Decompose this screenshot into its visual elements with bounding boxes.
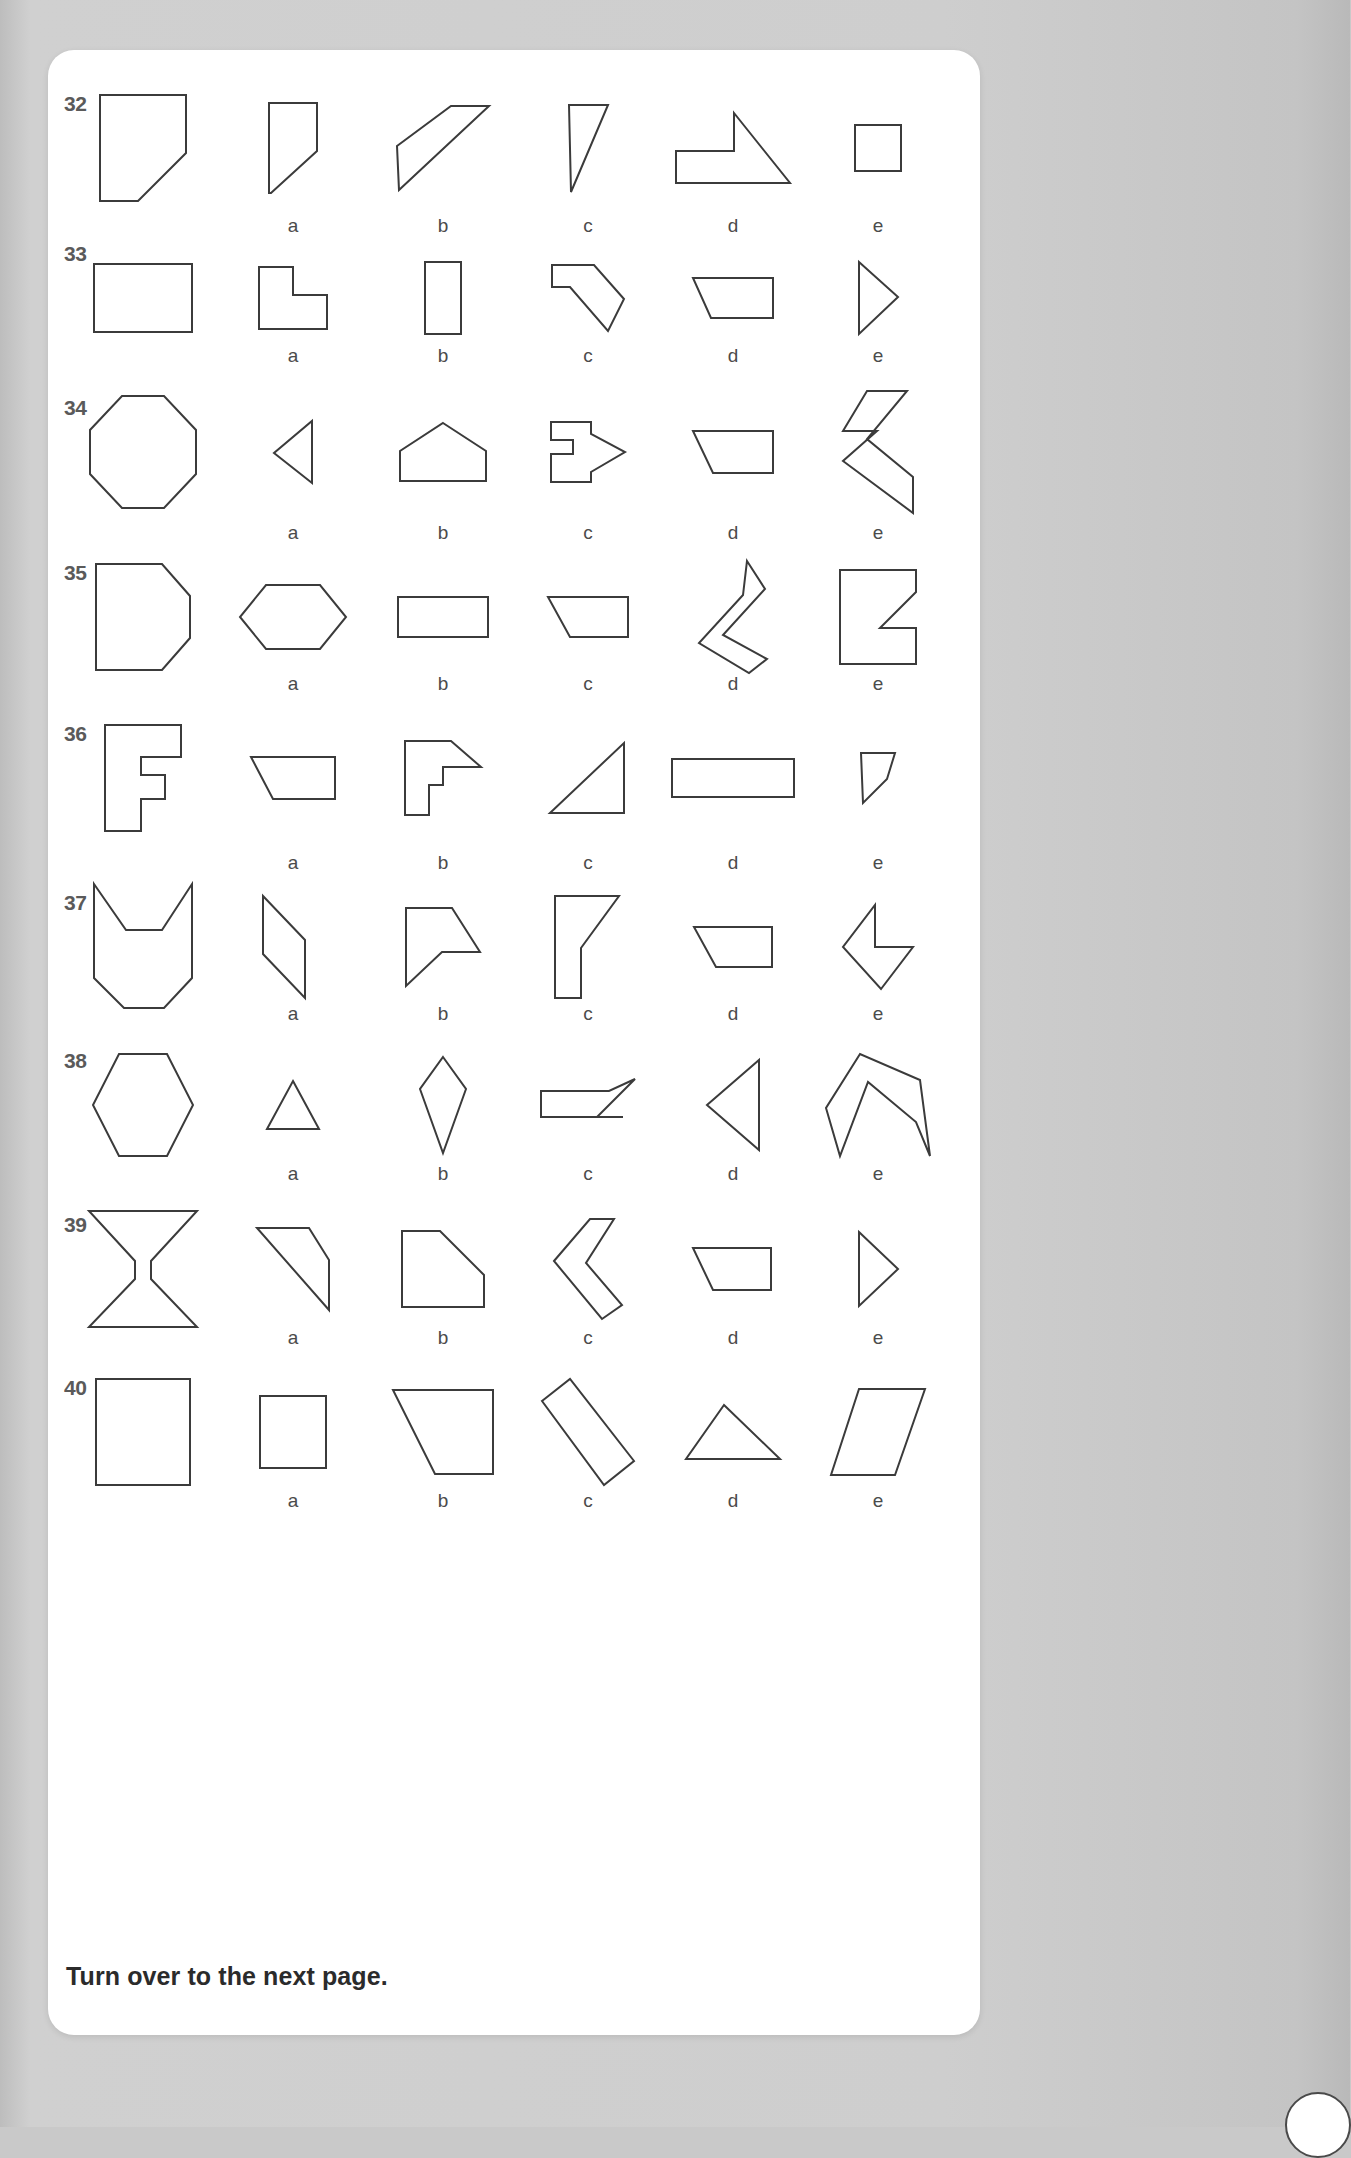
option-shape-d[interactable] — [697, 559, 769, 675]
option-label-c[interactable]: c — [568, 1490, 608, 1512]
option-shape-a[interactable] — [238, 583, 348, 651]
option-shape-a[interactable] — [267, 101, 319, 195]
option-shape-c[interactable] — [540, 1377, 636, 1487]
option-shape-a[interactable] — [261, 894, 325, 1000]
option-label-a[interactable]: a — [273, 1163, 313, 1185]
option-label-d[interactable]: d — [713, 522, 753, 544]
question-number: 39 — [64, 1213, 86, 1237]
option-label-d[interactable]: d — [713, 673, 753, 695]
option-shape-d[interactable] — [691, 1246, 775, 1292]
option-shape-e[interactable] — [856, 1229, 900, 1309]
option-shape-b[interactable] — [395, 104, 491, 192]
option-label-b[interactable]: b — [423, 1163, 463, 1185]
option-shape-e[interactable] — [859, 751, 897, 805]
option-label-e[interactable]: e — [858, 1327, 898, 1349]
option-shape-e[interactable] — [856, 259, 900, 337]
option-shape-c[interactable] — [548, 741, 628, 815]
question-number: 36 — [64, 722, 86, 746]
option-shape-d[interactable] — [684, 1403, 782, 1461]
option-label-e[interactable]: e — [858, 673, 898, 695]
option-label-e[interactable]: e — [858, 1490, 898, 1512]
option-shape-e[interactable] — [829, 1387, 927, 1477]
target-shape — [103, 723, 183, 833]
option-label-e[interactable]: e — [858, 215, 898, 237]
option-shape-a[interactable] — [255, 1226, 331, 1312]
option-shape-c[interactable] — [552, 1217, 624, 1321]
option-shape-b[interactable] — [396, 595, 490, 639]
option-label-b[interactable]: b — [423, 345, 463, 367]
option-shape-a[interactable] — [257, 265, 329, 331]
option-label-e[interactable]: e — [858, 1163, 898, 1185]
option-label-a[interactable]: a — [273, 1003, 313, 1025]
target-shape — [94, 562, 192, 672]
option-shape-c[interactable] — [549, 420, 627, 484]
option-shape-b[interactable] — [400, 1229, 486, 1309]
option-label-d[interactable]: d — [713, 1003, 753, 1025]
option-shape-b[interactable] — [418, 1055, 468, 1155]
option-label-c[interactable]: c — [568, 522, 608, 544]
option-shape-b[interactable] — [423, 260, 463, 336]
option-label-d[interactable]: d — [713, 852, 753, 874]
option-label-d[interactable]: d — [713, 1490, 753, 1512]
option-shape-c[interactable] — [550, 263, 626, 333]
option-shape-c[interactable] — [566, 102, 610, 194]
option-shape-a[interactable] — [249, 755, 337, 801]
target-shape — [88, 394, 198, 510]
option-label-d[interactable]: d — [713, 1163, 753, 1185]
option-label-b[interactable]: b — [423, 1490, 463, 1512]
option-shape-e[interactable] — [824, 1052, 932, 1158]
option-label-a[interactable]: a — [273, 1490, 313, 1512]
option-shape-b[interactable] — [391, 1388, 495, 1476]
option-shape-e[interactable] — [853, 123, 903, 173]
option-label-a[interactable]: a — [273, 345, 313, 367]
option-shape-c[interactable] — [539, 1077, 637, 1133]
option-shape-d[interactable] — [674, 111, 792, 185]
option-shape-d[interactable] — [705, 1058, 761, 1152]
option-label-b[interactable]: b — [423, 522, 463, 544]
option-label-d[interactable]: d — [713, 345, 753, 367]
option-label-b[interactable]: b — [423, 215, 463, 237]
option-shape-d[interactable] — [692, 925, 774, 969]
option-shape-b[interactable] — [398, 421, 488, 483]
option-shape-e[interactable] — [841, 389, 915, 515]
option-shape-a[interactable] — [272, 419, 314, 485]
option-shape-a[interactable] — [265, 1079, 321, 1131]
option-label-c[interactable]: c — [568, 673, 608, 695]
target-shape — [87, 1209, 199, 1329]
option-label-d[interactable]: d — [713, 215, 753, 237]
option-shape-d[interactable] — [670, 757, 796, 799]
option-shape-a[interactable] — [258, 1394, 328, 1470]
option-shape-c[interactable] — [546, 595, 630, 639]
option-label-c[interactable]: c — [568, 852, 608, 874]
option-label-a[interactable]: a — [273, 673, 313, 695]
option-label-c[interactable]: c — [568, 1327, 608, 1349]
option-label-a[interactable]: a — [273, 852, 313, 874]
option-label-c[interactable]: c — [568, 345, 608, 367]
option-label-c[interactable]: c — [568, 1003, 608, 1025]
option-shape-b[interactable] — [403, 739, 483, 817]
option-shape-d[interactable] — [691, 276, 775, 320]
option-label-e[interactable]: e — [858, 1003, 898, 1025]
option-label-b[interactable]: b — [423, 852, 463, 874]
option-shape-e[interactable] — [841, 903, 915, 991]
option-label-a[interactable]: a — [273, 215, 313, 237]
option-label-b[interactable]: b — [423, 1003, 463, 1025]
option-label-e[interactable]: e — [858, 852, 898, 874]
option-shape-c[interactable] — [553, 894, 623, 1000]
option-label-c[interactable]: c — [568, 1163, 608, 1185]
option-label-b[interactable]: b — [423, 1327, 463, 1349]
option-label-b[interactable]: b — [423, 673, 463, 695]
option-label-a[interactable]: a — [273, 522, 313, 544]
question-number: 40 — [64, 1376, 86, 1400]
option-shape-e[interactable] — [838, 568, 918, 666]
option-shape-b[interactable] — [404, 906, 482, 988]
option-label-a[interactable]: a — [273, 1327, 313, 1349]
option-label-e[interactable]: e — [858, 522, 898, 544]
question-row: 40abcde — [48, 1360, 980, 1520]
option-shape-d[interactable] — [691, 429, 775, 475]
option-label-e[interactable]: e — [858, 345, 898, 367]
option-label-d[interactable]: d — [713, 1327, 753, 1349]
question-row: 32abcde — [48, 70, 980, 240]
option-label-c[interactable]: c — [568, 215, 608, 237]
target-shape — [98, 93, 188, 203]
